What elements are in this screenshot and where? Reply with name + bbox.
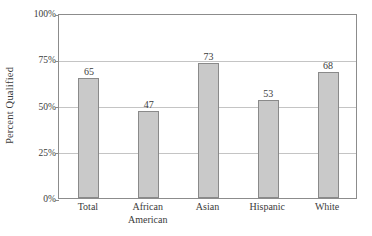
y-axis-tick-mark [55,15,59,16]
x-axis-tick-label-line: Asian [196,201,219,212]
x-axis-tick-label: White [287,201,367,214]
plot-inner: 6547735368 [59,15,356,198]
y-axis-tick-label: 25% [22,148,56,158]
y-axis-title-text: Percent Qualified [5,66,16,143]
y-axis-tick-label: 50% [22,102,56,112]
bar [318,72,339,198]
y-axis-tick-mark [55,107,59,108]
bar [258,100,279,198]
bar-value-label: 73 [189,51,229,62]
x-axis-tick-label-line: Total [78,201,98,212]
x-axis-tick-label-line: African [132,201,163,212]
bar-value-label: 65 [69,66,109,77]
bar-value-label: 47 [129,99,169,110]
y-axis-tick-label: 100% [22,9,56,19]
y-axis-tick-mark [55,153,59,154]
y-axis-tick-mark [55,61,59,62]
x-axis-tick-labels: TotalAfricanAmericanAsianHispanicWhite [58,201,357,236]
bar-value-label: 68 [308,60,348,71]
y-axis-title: Percent Qualified [0,0,20,210]
bar [138,111,159,198]
bar [198,63,219,198]
y-axis-tick-label: 75% [22,55,56,65]
bar-value-label: 53 [248,88,288,99]
x-axis-tick-label-line: White [315,201,339,212]
bar [78,78,99,198]
x-axis-tick-label-line: Hispanic [250,201,286,212]
bar-chart: Percent Qualified 0%25%50%75%100% 654773… [0,0,372,236]
plot-area: 6547735368 [58,14,357,199]
x-axis-tick-label-line: American [108,214,188,227]
